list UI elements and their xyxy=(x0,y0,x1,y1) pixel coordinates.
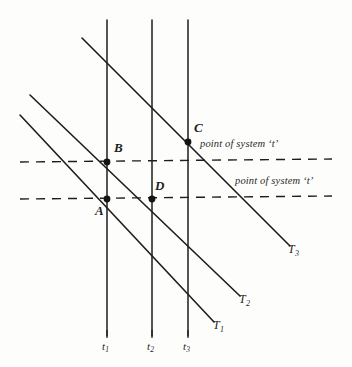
dashed-line-lower xyxy=(20,196,332,199)
point-B xyxy=(104,159,111,166)
axis-label-t2-sub: 2 xyxy=(150,345,154,354)
worldline-label-T1-sub: 1 xyxy=(220,325,224,334)
diagonal-line-T2 xyxy=(30,95,240,296)
worldline-label-T2-letter: T xyxy=(239,292,246,306)
worldline-label-T3-letter: T xyxy=(288,242,295,256)
worldline-label-T3: T3 xyxy=(288,243,299,255)
worldline-label-T3-sub: 3 xyxy=(295,249,299,258)
annotation-lower: point of system ‘t’ xyxy=(235,176,313,187)
point-A xyxy=(104,196,111,203)
axis-label-t2: t2 xyxy=(147,341,154,352)
axis-ticks-group xyxy=(107,330,188,338)
worldline-label-T2: T2 xyxy=(239,293,250,305)
worldline-label-T1: T1 xyxy=(213,319,224,331)
point-D xyxy=(149,196,156,203)
axis-label-t3-sub: 3 xyxy=(186,345,190,354)
point-label-A: A xyxy=(95,204,104,217)
axis-label-t1: t1 xyxy=(102,341,109,352)
worldline-label-T1-letter: T xyxy=(213,318,220,332)
vertical-lines-group xyxy=(107,20,188,336)
worldline-label-T2-sub: 2 xyxy=(246,299,250,308)
point-label-C: C xyxy=(194,121,203,134)
annotation-upper: point of system ‘t’ xyxy=(200,139,278,150)
point-label-B: B xyxy=(114,141,123,154)
dashed-line-upper xyxy=(20,159,332,162)
axis-label-t3: t3 xyxy=(183,341,190,352)
spacetime-diagram-figure: B A C D T3 T2 T1 t1 t2 t3 point of syste… xyxy=(0,0,352,367)
point-C xyxy=(185,139,192,146)
point-label-D: D xyxy=(155,179,165,192)
axis-label-t1-sub: 1 xyxy=(105,345,109,354)
